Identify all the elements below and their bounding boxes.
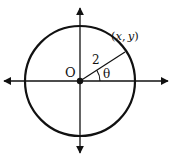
radius-label: 2 (92, 53, 100, 67)
origin-point (77, 78, 83, 84)
point-label-comma: , (122, 29, 126, 43)
point-label-close: ) (134, 29, 139, 43)
angle-arc (97, 70, 100, 81)
angle-label: θ (103, 67, 110, 81)
coordinate-diagram: O 2 θ (x,y) (0, 0, 176, 158)
origin-label: O (65, 65, 76, 80)
point-label: (x,y) (111, 29, 139, 43)
